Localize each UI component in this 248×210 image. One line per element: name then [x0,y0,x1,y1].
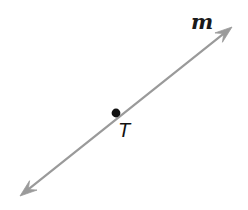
point-t-dot [112,109,121,118]
diagram-canvas: m T [0,0,248,210]
line-m-shaft [24,30,228,193]
arrowhead-upper-right-icon [215,27,232,42]
point-label-t: T [118,120,130,140]
arrowhead-lower-left-icon [20,181,37,196]
line-label-m: m [191,11,213,32]
